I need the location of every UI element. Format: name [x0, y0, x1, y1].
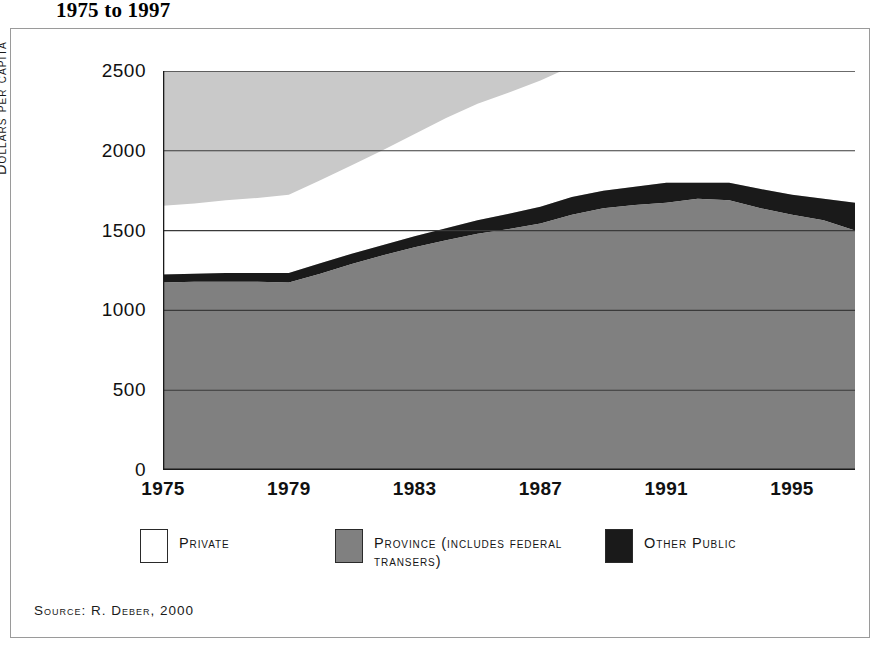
legend-item-private[interactable]: Private — [140, 528, 230, 563]
y-axis-tick-labels: 0 500 1000 1500 2000 2500 — [62, 71, 146, 470]
y-tick-label-500: 500 — [113, 379, 146, 401]
legend-label-other-public: Other Public — [644, 528, 736, 552]
y-tick-label-1500: 1500 — [102, 220, 146, 242]
y-axis-title: Dollars per capita — [0, 0, 9, 175]
x-tick-label-1991: 1991 — [644, 478, 687, 500]
plot-area — [163, 71, 855, 470]
x-tick-label-1975: 1975 — [141, 478, 184, 500]
x-tick-label-1987: 1987 — [519, 478, 562, 500]
legend-label-province: Province (includes federal transers) — [374, 528, 589, 570]
x-tick-label-1983: 1983 — [393, 478, 436, 500]
source-note: Source: R. Deber, 2000 — [34, 603, 194, 618]
y-tick-label-1000: 1000 — [102, 299, 146, 321]
legend-swatch-other-public — [605, 529, 633, 563]
figure-page: 1975 to 1997 Dollars per capita 0 500 10… — [0, 0, 879, 650]
x-axis-tick-labels: 1975 1979 1983 1987 1991 1995 — [0, 478, 879, 506]
y-tick-label-2000: 2000 — [102, 140, 146, 162]
x-tick-label-1995: 1995 — [770, 478, 813, 500]
y-tick-label-2500: 2500 — [102, 60, 146, 82]
stacked-area-chart — [163, 71, 855, 470]
legend-item-other-public[interactable]: Other Public — [605, 528, 736, 563]
x-tick-label-1979: 1979 — [267, 478, 310, 500]
chart-legend: Private Province (includes federal trans… — [140, 528, 860, 588]
legend-item-province[interactable]: Province (includes federal transers) — [335, 528, 589, 570]
legend-swatch-private — [140, 529, 168, 563]
figure-title: 1975 to 1997 — [56, 0, 170, 23]
legend-label-private: Private — [179, 528, 230, 552]
legend-swatch-province — [335, 529, 363, 563]
